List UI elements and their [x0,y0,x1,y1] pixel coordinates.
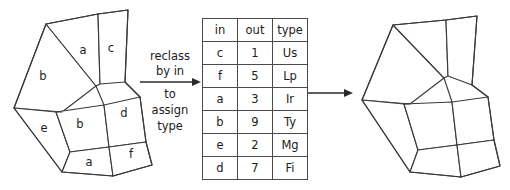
table-row: c 1 Us [203,42,308,65]
output-face-6 [452,97,494,145]
table-row: e 2 Mg [203,134,308,157]
table-header-type: type [273,19,308,42]
table-row: d 7 Fi [203,157,308,180]
input-label-d: d [120,106,127,120]
cell-in: e [203,134,238,157]
cell-out: 5 [238,65,273,88]
input-face-d [104,97,146,147]
caption-line-5: type [157,119,183,133]
cell-type: Ty [273,111,308,134]
input-label-e: e [40,121,47,135]
cell-out: 1 [238,42,273,65]
reclass-lookup-table: in out type c 1 Us f 5 Lp a 3 Ir b [202,18,308,180]
cell-type: Mg [273,134,308,157]
cell-type: Us [273,42,308,65]
input-label-b-upper: b [39,69,46,83]
diagram-canvas: a c b e b d a f reclass by in to assign … [0,0,510,190]
table-header-in: in [203,19,238,42]
apply-arrow-group [308,89,353,97]
cell-in: d [203,157,238,180]
cell-out: 7 [238,157,273,180]
cell-in: a [203,88,238,111]
reclass-arrow-head [192,78,201,86]
cell-type: Ir [273,88,308,111]
input-polygon-map: a c b e b d a f [14,10,152,176]
table-row: b 9 Ty [203,111,308,134]
table-header-row: in out type [203,19,308,42]
cell-in: f [203,65,238,88]
cell-type: Fi [273,157,308,180]
input-label-a-lower: a [85,155,92,169]
caption-line-4: assign [152,103,189,117]
table-row: a 3 Ir [203,88,308,111]
input-edge-link-1 [96,86,104,105]
input-label-a-upper: a [79,43,86,57]
cell-out: 2 [238,134,273,157]
cell-in: b [203,111,238,134]
cell-in: c [203,42,238,65]
caption-line-1: reclass [150,49,190,63]
table-header-out: out [238,19,273,42]
output-edge-link-2 [472,85,488,97]
apply-arrow-head [344,89,353,97]
caption-line-2: by in [156,64,184,78]
output-polygon-map [362,16,500,177]
input-edge-link-2 [125,82,140,97]
output-face-8 [457,140,500,177]
caption-line-3: to [164,87,176,101]
cell-type: Lp [273,65,308,88]
reclass-arrow-group: reclass by in to assign type [140,49,201,133]
output-edge-link-1 [444,78,452,102]
cell-out: 3 [238,88,273,111]
input-label-c: c [108,41,114,55]
table-row: f 5 Lp [203,65,308,88]
cell-out: 9 [238,111,273,134]
input-label-b-lower: b [76,117,83,131]
